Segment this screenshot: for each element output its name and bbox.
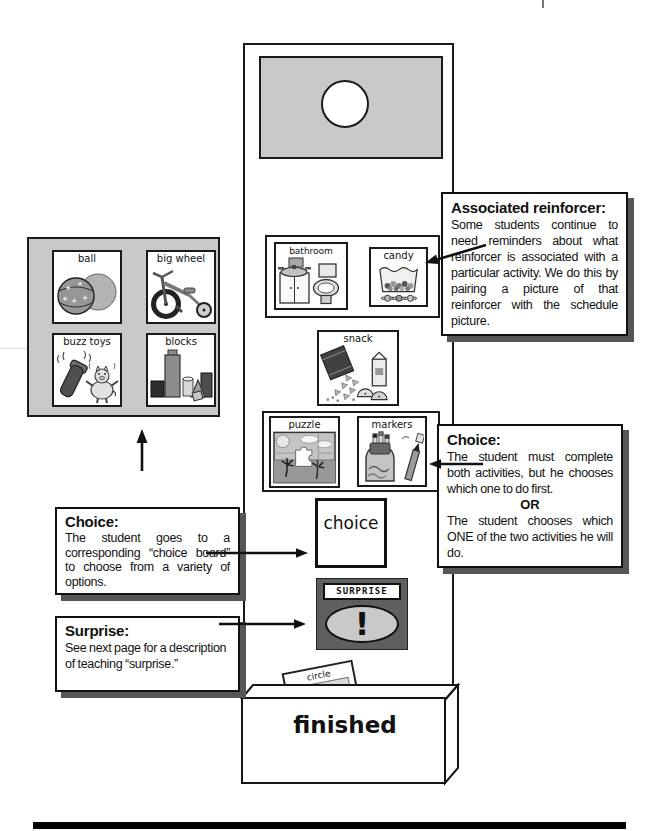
callout-choice-left: Choice: The student goes to a correspond… [55, 507, 240, 595]
choice-board-card-buzz-toys: buzz toys [52, 333, 122, 407]
candy-card-label: candy [371, 250, 426, 262]
schedule-card-snack: snack [317, 330, 399, 406]
tricycle-icon [149, 265, 213, 321]
choice-card-label: choice [318, 513, 384, 533]
page-footer-bar [33, 822, 626, 829]
sink-and-toilet-icon [277, 257, 345, 307]
candy-bag-icon [372, 262, 425, 304]
markers-card-label: markers [359, 419, 425, 431]
callout-body: Some students continue to need reminders… [451, 217, 618, 329]
callout-choice-right: Choice: The student must complete both a… [437, 424, 623, 568]
choice-board-card-big-wheel: big wheel [146, 250, 216, 324]
callout-body: The student goes to a corresponding “cho… [65, 531, 230, 589]
schedule-card-choice: choice [315, 498, 387, 568]
svg-text:★: ★ [71, 297, 77, 305]
callout-body-bottom: The student chooses which ONE of the two… [447, 513, 613, 561]
svg-text:★: ★ [77, 280, 83, 288]
choice-board-card-ball: ball ★★ ★★ ★ [52, 250, 122, 324]
schedule-card-bathroom: bathroom [274, 242, 348, 310]
bathroom-card-label: bathroom [276, 245, 346, 257]
page-edge-artifact [542, 0, 544, 8]
hanging-hole-icon [321, 80, 369, 128]
buzz-toys-card-label: buzz toys [54, 336, 120, 348]
schedule-header-card [259, 56, 443, 159]
svg-text:★: ★ [62, 295, 68, 303]
document-page: bathroom candy [0, 0, 661, 831]
choice-board-card-blocks: blocks [146, 333, 216, 407]
callout-title: Surprise: [65, 622, 230, 640]
schedule-card-markers: markers [357, 416, 427, 487]
chips-milk-apple-icon [320, 345, 396, 403]
callout-surprise: Surprise: See next page for a descriptio… [55, 616, 240, 692]
svg-text:★: ★ [65, 284, 71, 292]
callout-or: OR [447, 497, 613, 513]
surprise-card-label: SURPRISE [323, 583, 401, 600]
callout-body: See next page for a description of teach… [65, 640, 230, 672]
finished-pocket-label: finished [262, 712, 428, 738]
callout-title: Choice: [447, 431, 613, 449]
schedule-card-puzzle: puzzle [269, 416, 340, 488]
schedule-card-candy: candy [369, 247, 428, 307]
callout-title: Associated reinforcer: [451, 199, 618, 217]
exclamation-icon: ! [325, 605, 399, 643]
blocks-card-label: blocks [148, 336, 214, 348]
big-wheel-card-label: big wheel [148, 253, 214, 265]
puzzle-scene-icon [272, 431, 337, 485]
schedule-card-surprise: SURPRISE ! [316, 578, 408, 650]
exclamation-mark: ! [355, 605, 370, 643]
callout-associated-reinforcer: Associated reinforcer: Some students con… [441, 192, 628, 336]
marker-pack-icon [360, 431, 424, 484]
puzzle-card-label: puzzle [271, 419, 338, 431]
svg-text:★: ★ [82, 294, 88, 302]
page-fold-line [0, 348, 30, 349]
ball-card-label: ball [54, 253, 120, 265]
two-balls-icon: ★★ ★★ ★ [55, 265, 119, 321]
snack-card-label: snack [319, 333, 397, 345]
vibrating-flashlight-and-pig-icon [55, 348, 119, 404]
callout-title: Choice: [65, 513, 230, 531]
building-blocks-icon [149, 348, 213, 404]
callout-body-top: The student must complete both activitie… [447, 449, 613, 497]
